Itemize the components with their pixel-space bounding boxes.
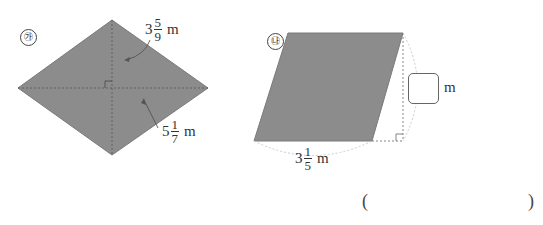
diagonal-1-numerator: 5 (154, 16, 163, 30)
base-label: 3 1 5 m (295, 145, 329, 172)
diagonal-2-label: 5 1 7 m (162, 118, 196, 145)
answer-close-paren: ) (528, 191, 534, 212)
height-answer-box[interactable] (408, 73, 439, 104)
diagonal-1-whole: 3 (145, 22, 153, 37)
height-unit: m (444, 79, 456, 96)
diagonal-2-denominator: 7 (172, 132, 179, 145)
diagonal-2-numerator: 1 (171, 118, 180, 132)
base-whole: 3 (295, 151, 303, 166)
answer-open-paren: ( (362, 191, 368, 212)
figure-b-marker: ㉯ (267, 33, 284, 50)
base-fraction: 1 5 (304, 145, 313, 172)
diagonal-1-unit: m (167, 22, 179, 37)
answer-field[interactable] (380, 193, 520, 213)
diagonal-1-fraction: 5 9 (154, 16, 163, 43)
diagonal-2-fraction: 1 7 (171, 118, 180, 145)
base-numerator: 1 (304, 145, 313, 159)
diagonal-2-whole: 5 (162, 124, 170, 139)
diagonal-1-label: 3 5 9 m (145, 16, 179, 43)
base-denominator: 5 (305, 159, 312, 172)
diagonal-1-denominator: 9 (155, 30, 162, 43)
base-unit: m (317, 151, 329, 166)
diagonal-2-unit: m (184, 124, 196, 139)
figure-a-marker: ㉮ (20, 29, 37, 46)
right-angle-mark-b (396, 134, 403, 141)
